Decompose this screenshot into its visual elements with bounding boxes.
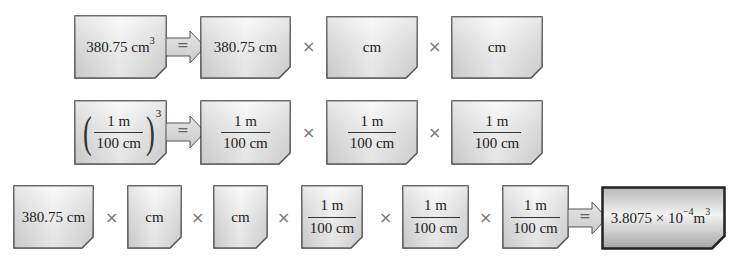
row3-factor-box-2: cm <box>127 185 182 249</box>
numerator: 1 m <box>522 197 549 214</box>
right-paren: ) <box>146 111 155 155</box>
denominator: 100 cm <box>308 220 357 237</box>
fraction-bar <box>308 217 357 218</box>
fraction-bar <box>411 217 460 218</box>
factor-value: 380.75 cm <box>214 39 277 56</box>
equals-sign: = <box>579 208 591 224</box>
row1-rhs-box-1: 380.75 cm <box>200 16 291 79</box>
row3-factor-box-6: 1 m 100 cm <box>502 185 569 249</box>
fraction: 1 m 100 cm <box>94 113 143 153</box>
times-sign: × <box>302 37 315 56</box>
result-unit: m <box>694 210 706 227</box>
factor-value: 380.75 cm <box>22 209 85 226</box>
fraction-bar <box>348 132 397 133</box>
times-sign: × <box>105 208 118 227</box>
result-mantissa: 3.8075 × 10 <box>611 210 683 227</box>
denominator: 100 cm <box>348 135 397 152</box>
factor-value: cm <box>145 209 163 226</box>
denominator: 100 cm <box>473 135 522 152</box>
factor-value: cm <box>231 209 249 226</box>
fraction: 1 m 100 cm <box>221 113 270 153</box>
factor-value: cm <box>488 39 506 56</box>
factor-value: cm <box>363 39 381 56</box>
times-sign: × <box>379 208 392 227</box>
numerator: 1 m <box>105 113 132 130</box>
fraction: 1 m 100 cm <box>473 113 522 153</box>
fraction: 1 m 100 cm <box>348 113 397 153</box>
row2-rhs-box-2: 1 m 100 cm <box>326 100 418 165</box>
denominator: 100 cm <box>411 220 460 237</box>
numerator: 1 m <box>319 197 346 214</box>
equals-sign: = <box>177 122 189 138</box>
row1-rhs-box-2: cm <box>326 16 418 79</box>
row3-factor-box-4: 1 m 100 cm <box>301 185 363 249</box>
fraction: 1 m 100 cm <box>308 197 357 237</box>
lhs-exponent: 3 <box>150 35 155 46</box>
row1-rhs-box-3: cm <box>451 16 543 79</box>
fraction-bar <box>473 132 522 133</box>
row2-rhs-box-1: 1 m 100 cm <box>200 100 291 165</box>
row3-factor-box-5: 1 m 100 cm <box>402 185 469 249</box>
times-sign: × <box>479 208 492 227</box>
numerator: 1 m <box>359 113 386 130</box>
fraction: 1 m 100 cm <box>411 197 460 237</box>
numerator: 1 m <box>232 113 259 130</box>
row3-factor-box-1: 380.75 cm <box>13 185 94 249</box>
left-paren: ( <box>83 111 92 155</box>
times-sign: × <box>428 123 441 142</box>
equals-sign: = <box>177 37 189 53</box>
row3-factor-box-3: cm <box>213 185 268 249</box>
fraction-bar <box>221 132 270 133</box>
denominator: 100 cm <box>94 135 143 152</box>
result-exponent: −4 <box>683 206 694 217</box>
denominator: 100 cm <box>511 220 560 237</box>
numerator: 1 m <box>422 197 449 214</box>
fraction-bar <box>94 132 143 133</box>
denominator: 100 cm <box>221 135 270 152</box>
lhs-exponent: 3 <box>156 107 162 119</box>
numerator: 1 m <box>484 113 511 130</box>
row2-rhs-box-3: 1 m 100 cm <box>451 100 543 165</box>
row2-lhs-box: ( 1 m 100 cm ) 3 <box>74 100 167 165</box>
result-box: 3.8075 × 10−4 m3 <box>601 186 726 250</box>
times-sign: × <box>191 208 204 227</box>
result-unit-exponent: 3 <box>705 206 710 217</box>
times-sign: × <box>277 208 290 227</box>
lhs-value: 380.75 cm <box>86 39 149 56</box>
times-sign: × <box>428 37 441 56</box>
row1-lhs-box: 380.75 cm3 <box>74 15 167 79</box>
times-sign: × <box>302 123 315 142</box>
fraction-bar <box>511 217 560 218</box>
fraction: 1 m 100 cm <box>511 197 560 237</box>
